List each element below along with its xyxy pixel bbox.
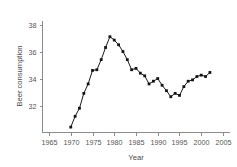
line-chart-plot: 32343638 Beer consumption 19651970197519… xyxy=(0,0,237,167)
series-markers xyxy=(69,35,211,128)
x-axis: 196519701975198019851990199520002005 Yea… xyxy=(42,133,232,163)
x-tick-label: 1965 xyxy=(42,138,58,147)
data-point-marker xyxy=(130,68,133,71)
data-point-marker xyxy=(117,43,120,46)
data-point-marker xyxy=(126,58,129,61)
data-point-marker xyxy=(143,74,146,77)
data-point-marker xyxy=(82,92,85,95)
x-tick-label: 2000 xyxy=(194,138,210,147)
x-tick-label: 1980 xyxy=(107,138,123,147)
data-point-marker xyxy=(87,83,90,86)
data-point-marker xyxy=(152,80,155,83)
data-point-marker xyxy=(156,77,159,80)
data-point-marker xyxy=(104,46,107,49)
data-point-marker xyxy=(95,68,98,71)
x-tick-label: 2005 xyxy=(216,138,232,147)
x-axis-title: Year xyxy=(128,153,144,162)
chart-figure: · · · · 32343638 Beer consumption 196519… xyxy=(0,0,237,167)
data-point-marker xyxy=(74,115,77,118)
data-point-marker xyxy=(178,94,181,97)
data-point-marker xyxy=(69,126,72,129)
y-tick-label: 32 xyxy=(29,102,37,111)
data-series xyxy=(69,35,211,128)
y-axis-title: Beer consumption xyxy=(15,45,24,106)
data-point-marker xyxy=(122,50,125,53)
y-axis-tick-labels: 32343638 xyxy=(29,21,37,111)
y-tick-label: 38 xyxy=(29,21,37,30)
x-tick-label: 1995 xyxy=(172,138,188,147)
data-point-marker xyxy=(182,85,185,88)
data-point-marker xyxy=(113,39,116,42)
data-point-marker xyxy=(204,75,207,78)
data-point-marker xyxy=(139,72,142,75)
data-point-marker xyxy=(174,92,177,95)
data-point-marker xyxy=(148,83,151,86)
data-point-marker xyxy=(195,75,198,78)
data-point-marker xyxy=(78,107,81,110)
x-tick-label: 1990 xyxy=(151,138,167,147)
data-point-marker xyxy=(109,35,112,38)
x-tick-label: 1975 xyxy=(86,138,102,147)
data-point-marker xyxy=(91,69,94,72)
y-tick-label: 36 xyxy=(29,48,37,57)
data-point-marker xyxy=(187,80,190,83)
x-tick-label: 1970 xyxy=(64,138,80,147)
data-point-marker xyxy=(161,84,164,87)
x-tick-label: 1985 xyxy=(129,138,145,147)
y-axis: 32343638 Beer consumption xyxy=(15,21,43,133)
y-tick-label: 34 xyxy=(29,75,37,84)
x-axis-tick-labels: 196519701975198019851990199520002005 xyxy=(42,138,232,147)
data-point-marker xyxy=(200,74,203,77)
data-point-marker xyxy=(165,89,168,92)
data-point-marker xyxy=(191,78,194,81)
data-point-marker xyxy=(209,71,212,74)
data-point-marker xyxy=(100,58,103,61)
data-point-marker xyxy=(135,67,138,70)
data-point-marker xyxy=(169,95,172,98)
